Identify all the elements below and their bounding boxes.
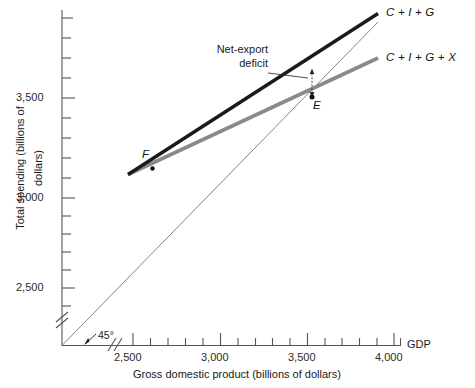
net-export-deficit-annotation: Net-export deficit bbox=[178, 43, 268, 71]
y-axis-title-wrapper: Total spending (billions of dollars) bbox=[10, 93, 46, 243]
point-label-E: E bbox=[313, 99, 321, 112]
point-label-F: F bbox=[142, 148, 149, 161]
x-tick-label-2500: 2,500 bbox=[114, 351, 142, 364]
point-marker-F bbox=[150, 166, 154, 170]
y-tick-label-2500: 2,500 bbox=[16, 281, 44, 294]
chart-figure: 3,500 3,000 2,500 2,500 3,000 3,500 4,00… bbox=[0, 0, 475, 388]
x-axis-end-label: GDP bbox=[407, 338, 431, 351]
series-label-cigx: C + I + G + X bbox=[386, 51, 456, 64]
x-tick-label-3500: 3,500 bbox=[288, 351, 316, 364]
x-tick-label-3000: 3,000 bbox=[201, 351, 229, 364]
angle-arrow-icon bbox=[84, 334, 96, 345]
net-export-deficit-leader-line bbox=[268, 73, 308, 78]
x-axis-ticks bbox=[133, 333, 394, 346]
net-export-deficit-line1: Net-export bbox=[178, 43, 268, 57]
net-export-deficit-line2: deficit bbox=[178, 57, 268, 71]
angle-45-label: 45° bbox=[98, 329, 114, 341]
y-axis-title: Total spending (billions of dollars) bbox=[14, 106, 44, 230]
x-tick-label-4000: 4,000 bbox=[375, 351, 403, 364]
net-export-deficit-marker bbox=[310, 69, 315, 98]
series-line-cigx bbox=[128, 58, 378, 175]
x-axis-title: Gross domestic product (billions of doll… bbox=[133, 368, 341, 381]
series-label-cig: C + I + G bbox=[386, 6, 434, 19]
y-axis-ticks bbox=[62, 18, 75, 306]
